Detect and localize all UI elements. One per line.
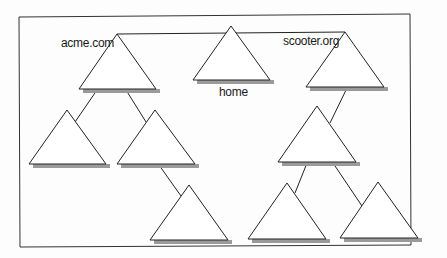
edge-acme-grandchild xyxy=(159,165,181,196)
edge-scooter-child xyxy=(330,88,347,123)
node-home xyxy=(193,26,274,84)
label-scooter: scooter.org xyxy=(283,34,339,48)
triangle-icon xyxy=(278,106,356,162)
shadow xyxy=(154,240,232,244)
shadow xyxy=(83,89,160,93)
shadow xyxy=(282,162,360,166)
node-acme-grandchild-1 xyxy=(150,185,232,244)
triangle-icon xyxy=(193,26,270,80)
edge-acme-child-1 xyxy=(75,90,97,122)
shadow xyxy=(121,164,199,168)
shadow xyxy=(252,239,330,243)
edge-scooter-grandchild-2 xyxy=(333,163,362,206)
triangle-icon xyxy=(29,110,106,164)
triangle-icon xyxy=(150,185,228,240)
node-acme-child-2 xyxy=(117,110,199,168)
node-acme-child-1 xyxy=(29,110,110,168)
shadow xyxy=(344,238,422,242)
edge-acme-child-2 xyxy=(126,90,146,122)
shadow xyxy=(310,87,388,91)
shadow xyxy=(197,80,274,84)
node-scooter-grandchild-1 xyxy=(248,183,330,243)
edge-scooter-grandchild-1 xyxy=(295,163,307,193)
node-scooter-child-1 xyxy=(278,106,360,166)
shadow xyxy=(33,164,110,168)
label-home: home xyxy=(219,85,248,99)
triangle-icon xyxy=(117,110,195,164)
tree-diagram: acme.com home scooter.org xyxy=(0,0,447,258)
triangle-icon xyxy=(248,183,326,239)
label-acme: acme.com xyxy=(61,36,114,50)
